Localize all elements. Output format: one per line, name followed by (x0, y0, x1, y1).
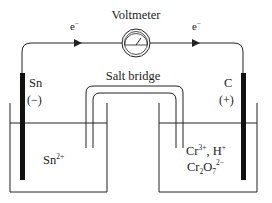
circuit-wire-right (150, 43, 243, 73)
anode-sign: (−) (27, 93, 42, 107)
salt-bridge (86, 86, 183, 148)
electron-label-left: e− (70, 20, 79, 32)
left-solution-label: Sn2+ (43, 152, 64, 167)
anode-label: Sn (29, 76, 43, 90)
cathode-sign: (+) (219, 93, 234, 107)
electron-label-right: e− (192, 20, 201, 32)
cathode-label: C (224, 76, 232, 90)
tin-electrode (20, 73, 25, 180)
carbon-electrode (241, 73, 246, 180)
voltmeter-label: Voltmeter (111, 8, 161, 22)
right-solution-dichromate: Cr2O72− (187, 158, 224, 176)
electron-arrow-left-icon (74, 39, 82, 47)
electrochemical-cell-diagram: e− e− Voltmeter Salt bridge Sn (−) C (+)… (0, 0, 272, 203)
voltmeter-icon (122, 29, 150, 57)
right-solution-ions: Cr3+, H+ (186, 143, 226, 158)
salt-bridge-label: Salt bridge (106, 69, 161, 83)
electron-arrow-right-icon (192, 39, 200, 47)
